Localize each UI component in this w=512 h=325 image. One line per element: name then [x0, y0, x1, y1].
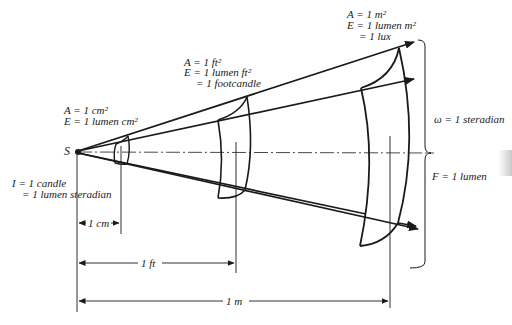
m-area-label-line3: = 1 lux: [359, 31, 391, 42]
m-area-patch: [360, 48, 409, 246]
dimension-ft-label: 1 ft: [141, 258, 155, 269]
intensity-label-line2: = 1 lumen steradian: [22, 189, 112, 200]
solid-angle-brace: [410, 40, 431, 268]
solid-angle-label: ω = 1 steradian: [434, 114, 505, 125]
center-axis: [78, 152, 434, 153]
edge-shadow: [498, 150, 512, 176]
dimension-m-label: 1 m: [226, 296, 242, 307]
dimension-lines: [79, 223, 388, 301]
source-label: S: [64, 146, 70, 157]
source-point: [75, 149, 81, 155]
cm-area-label-line2: E = 1 lumen cm²: [64, 116, 138, 127]
solid-angle-diagram: [0, 0, 512, 325]
ft-area-label-line3: = 1 footcandle: [196, 78, 261, 89]
dimension-cm-label: 1 cm: [88, 218, 109, 229]
flux-label: F = 1 lumen: [432, 171, 487, 182]
